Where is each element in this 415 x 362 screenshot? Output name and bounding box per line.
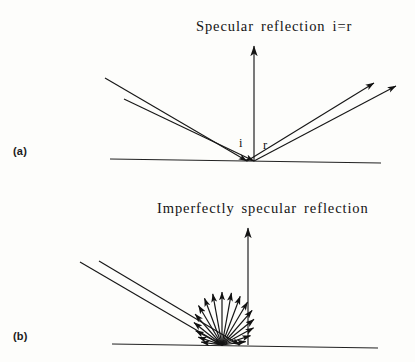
panel-b-diagram [80,228,378,348]
reflected-rays-a [247,83,396,161]
incident-rays-b [80,261,240,345]
reflected-ray-a-1 [247,83,374,161]
reflected-ray-a-2 [254,86,396,161]
incident-ray-b-1 [80,262,222,345]
incident-ray-b-2 [99,261,240,345]
panel-a-diagram [105,46,396,163]
incident-ray-a-1 [105,78,247,161]
incident-ray-a-2 [124,99,254,161]
scattered-rays-fan-b [194,292,254,345]
incident-rays-a [105,78,254,161]
surface-line-b [112,344,378,348]
figure-root: (a) Specular reflection i=r i r (b) Impe… [0,0,415,362]
diagram-canvas [0,0,415,362]
